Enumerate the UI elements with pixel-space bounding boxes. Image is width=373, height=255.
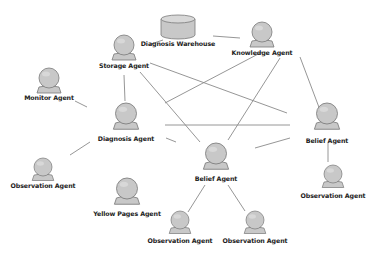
node-label-observation-right: Observation Agent <box>301 192 366 199</box>
agent-icon[interactable] <box>32 158 54 181</box>
edge-storage-diagnosis <box>124 75 125 101</box>
node-label-observation-bottom-left: Observation Agent <box>148 237 213 244</box>
agent-icon[interactable] <box>244 211 266 234</box>
node-label-storage: Storage Agent <box>99 62 149 69</box>
database-icon[interactable] <box>161 15 195 39</box>
agent-icon[interactable] <box>113 103 138 129</box>
node-label-warehouse: Diagnosis Warehouse <box>141 40 216 47</box>
edge-storage-belief_center <box>140 72 200 142</box>
agent-icon[interactable] <box>314 103 339 129</box>
node-label-observation-left: Observation Agent <box>11 182 76 189</box>
edge-belief_center-observation_bottom_left <box>188 185 205 212</box>
agent-icon[interactable] <box>169 211 191 234</box>
edge-storage-belief_right <box>150 63 287 113</box>
node-label-monitor: Monitor Agent <box>24 94 74 101</box>
node-label-knowledge: Knowledge Agent <box>231 49 292 56</box>
node-label-belief-center: Belief Agent <box>195 175 238 182</box>
edge-diagnosis-observation_left <box>70 142 90 155</box>
agent-icon[interactable] <box>250 22 274 47</box>
edge-belief_center-belief_right <box>255 138 290 148</box>
edge-monitor-diagnosis <box>75 101 87 107</box>
node-label-belief-right: Belief Agent <box>306 137 349 144</box>
agent-icon[interactable] <box>37 68 61 93</box>
agent-icon[interactable] <box>112 35 136 60</box>
edge-knowledge-belief_center <box>228 58 280 140</box>
node-label-diagnosis: Diagnosis Agent <box>98 135 154 142</box>
node-label-observation-bottom-right: Observation Agent <box>223 237 288 244</box>
edge-knowledge-belief_right <box>300 57 320 110</box>
agent-icon[interactable] <box>322 165 344 188</box>
agent-icon[interactable] <box>203 143 228 169</box>
node-label-yellow-pages: Yellow Pages Agent <box>93 210 161 217</box>
edge-diagnosis-belief_center <box>166 138 176 142</box>
edge-warehouse-knowledge <box>213 36 240 38</box>
agent-icon[interactable] <box>114 178 139 204</box>
edge-knowledge-diagnosis <box>165 52 262 103</box>
agent-network-diagram <box>0 0 373 255</box>
edge-belief_center-observation_bottom_right <box>228 185 245 211</box>
